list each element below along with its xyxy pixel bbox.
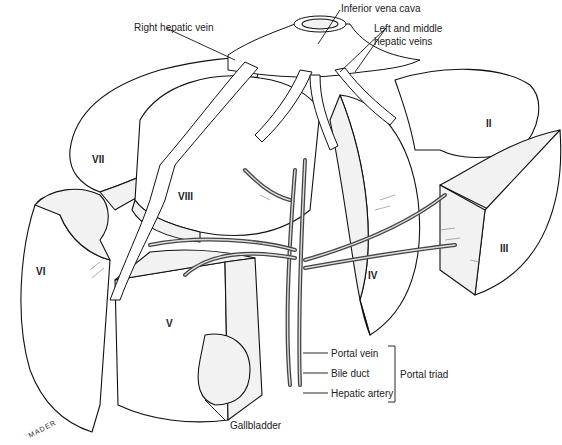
- segment-vi-shape: [21, 189, 110, 432]
- label-portal-triad: Portal triad: [400, 369, 448, 380]
- label-hepatic-artery: Hepatic artery: [331, 388, 393, 399]
- segment-label-v: V: [166, 318, 173, 329]
- segment-label-ii: II: [486, 118, 492, 129]
- label-left-middle-hepatic-veins-line1: Left and middle: [374, 23, 443, 34]
- label-gallbladder: Gallbladder: [230, 420, 282, 431]
- label-left-middle-hepatic-veins-line2: hepatic veins: [374, 36, 432, 47]
- liver-segments-figure: Right hepatic vein Inferior vena cava Le…: [0, 0, 562, 445]
- label-inferior-vena-cava: Inferior vena cava: [341, 3, 421, 14]
- segment-iv-shape: [330, 95, 420, 335]
- liver-diagram: Right hepatic vein Inferior vena cava Le…: [0, 0, 562, 445]
- label-portal-vein: Portal vein: [331, 348, 378, 359]
- segment-label-iii: III: [500, 243, 509, 254]
- segment-label-viii: VIII: [178, 191, 193, 202]
- label-right-hepatic-vein: Right hepatic vein: [134, 22, 214, 33]
- segment-label-vii: VII: [92, 154, 104, 165]
- label-bile-duct: Bile duct: [331, 368, 370, 379]
- artist-signature: MADER: [27, 418, 57, 438]
- segment-label-iv: IV: [368, 270, 378, 281]
- segment-label-vi: VI: [36, 266, 46, 277]
